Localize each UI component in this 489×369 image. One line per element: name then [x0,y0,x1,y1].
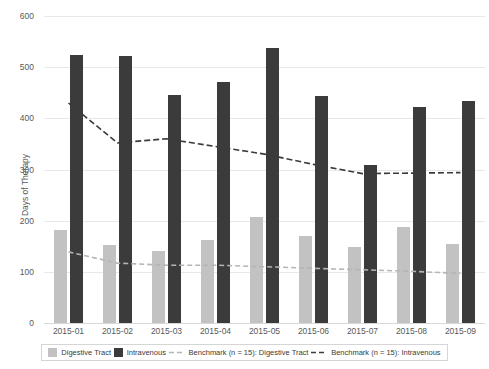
chart-legend: Digestive TractIntravenousBenchmark (n =… [41,344,448,361]
gridline [44,323,485,324]
y-axis-tick-label: 0 [0,319,34,328]
x-axis-tick-label: 2015-04 [191,327,240,336]
x-axis-tick-label: 2015-09 [436,327,485,336]
y-axis-tick-label: 200 [0,217,34,226]
y-axis-tick-label: 100 [0,268,34,277]
plot-area: 0100200300400500600 2015-012015-022015-0… [44,16,485,323]
x-axis-tick-label: 2015-03 [142,327,191,336]
y-axis-title: Days of Therapy [20,153,30,215]
legend-item[interactable]: Digestive Tract [48,348,111,357]
y-axis-tick-label: 500 [0,63,34,72]
legend-item[interactable]: Benchmark (n = 15): Intravenous [311,348,440,357]
legend-swatch-icon [114,348,123,357]
x-axis-tick-label: 2015-02 [93,327,142,336]
legend-item-label: Benchmark (n = 15): Digestive Tract [189,348,309,357]
x-axis-tick-label: 2015-06 [289,327,338,336]
x-axis-tick-label: 2015-01 [44,327,93,336]
y-axis-tick-label: 600 [0,12,34,21]
legend-item[interactable]: Intravenous [114,348,166,357]
benchmark-line-digestive-tract [69,252,461,274]
legend-swatch-icon [48,348,57,357]
legend-dashed-line-icon [169,348,185,357]
legend-item[interactable]: Benchmark (n = 15): Digestive Tract [169,348,309,357]
legend-item-label: Intravenous [127,348,166,357]
benchmark-lines-group [44,16,485,323]
x-axis-tick-label: 2015-05 [240,327,289,336]
x-axis-tick-label: 2015-07 [338,327,387,336]
legend-item-label: Benchmark (n = 15): Intravenous [331,348,440,357]
legend-dashed-line-icon [311,348,327,357]
benchmark-line-intravenous [69,103,461,174]
x-axis-tick-label: 2015-08 [387,327,436,336]
legend-item-label: Digestive Tract [61,348,111,357]
y-axis-tick-label: 400 [0,114,34,123]
chart-container: Days of Therapy 0100200300400500600 2015… [0,0,489,369]
y-axis-tick-label: 300 [0,166,34,175]
